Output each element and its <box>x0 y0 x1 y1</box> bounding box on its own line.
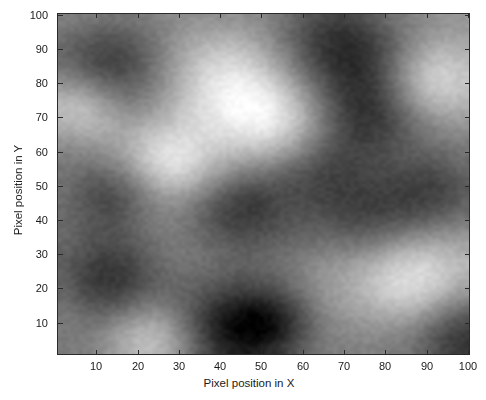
x-axis-label-text: Pixel position in X <box>204 377 295 389</box>
x-tick-100 <box>468 350 469 355</box>
y-tick-50 <box>58 186 63 187</box>
y-tick-80 <box>58 83 63 84</box>
y-tick-right-100 <box>465 15 469 16</box>
x-tick-80 <box>385 350 386 355</box>
y-tick-label-100: 100 <box>0 9 48 21</box>
y-tick-90 <box>58 49 63 50</box>
x-tick-top-50 <box>261 14 262 18</box>
y-tick-label-30: 30 <box>0 248 48 260</box>
y-tick-label-60: 60 <box>0 146 48 158</box>
x-tick-label-30: 30 <box>173 360 185 372</box>
y-tick-right-60 <box>465 152 469 153</box>
x-tick-top-10 <box>96 14 97 18</box>
x-tick-40 <box>220 350 221 355</box>
y-tick-30 <box>58 254 63 255</box>
y-tick-label-20: 20 <box>0 282 48 294</box>
x-tick-30 <box>179 350 180 355</box>
x-tick-60 <box>303 350 304 355</box>
x-tick-top-60 <box>303 14 304 18</box>
x-tick-top-90 <box>427 14 428 18</box>
y-tick-right-80 <box>465 83 469 84</box>
y-tick-label-90: 90 <box>0 43 48 55</box>
y-tick-right-10 <box>465 323 469 324</box>
x-tick-top-40 <box>220 14 221 18</box>
x-tick-10 <box>96 350 97 355</box>
y-tick-right-20 <box>465 288 469 289</box>
x-tick-label-10: 10 <box>90 360 102 372</box>
y-tick-40 <box>58 220 63 221</box>
y-tick-60 <box>58 152 63 153</box>
y-tick-label-50: 50 <box>0 180 48 192</box>
y-tick-label-40: 40 <box>0 214 48 226</box>
x-tick-top-30 <box>179 14 180 18</box>
y-tick-100 <box>58 15 63 16</box>
y-tick-10 <box>58 323 63 324</box>
x-axis-label: Pixel position in X <box>0 377 486 389</box>
x-tick-label-90: 90 <box>421 360 433 372</box>
y-tick-70 <box>58 117 63 118</box>
figure-container: 1020304050607080901001020304050607080901… <box>0 0 486 400</box>
x-tick-label-100: 100 <box>459 360 477 372</box>
y-tick-right-50 <box>465 186 469 187</box>
x-tick-label-40: 40 <box>214 360 226 372</box>
x-tick-90 <box>427 350 428 355</box>
x-tick-50 <box>261 350 262 355</box>
x-tick-label-70: 70 <box>338 360 350 372</box>
x-tick-top-20 <box>138 14 139 18</box>
x-tick-top-80 <box>385 14 386 18</box>
y-tick-right-70 <box>465 117 469 118</box>
y-tick-right-40 <box>465 220 469 221</box>
y-tick-label-10: 10 <box>0 317 48 329</box>
x-tick-label-50: 50 <box>255 360 267 372</box>
x-tick-top-70 <box>344 14 345 18</box>
y-tick-label-80: 80 <box>0 77 48 89</box>
x-tick-20 <box>138 350 139 355</box>
x-tick-70 <box>344 350 345 355</box>
x-tick-label-20: 20 <box>132 360 144 372</box>
image-plot-area <box>57 13 470 355</box>
y-tick-label-70: 70 <box>0 111 48 123</box>
y-tick-20 <box>58 288 63 289</box>
x-tick-label-60: 60 <box>297 360 309 372</box>
y-axis-label: Pixel position in Y <box>12 80 24 300</box>
grayscale-field-canvas <box>58 14 469 354</box>
y-tick-right-30 <box>465 254 469 255</box>
x-tick-label-80: 80 <box>379 360 391 372</box>
y-tick-right-90 <box>465 49 469 50</box>
